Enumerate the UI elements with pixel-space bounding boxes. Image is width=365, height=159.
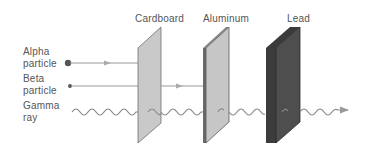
lead-shield [266, 27, 300, 143]
beta-particle-path-continued [161, 84, 204, 89]
aluminum-shield [203, 27, 229, 143]
cardboard-shield [138, 27, 161, 143]
beta-particle-path [68, 84, 138, 88]
beta-arrow-icon [176, 84, 183, 89]
gamma-ray-path [72, 109, 138, 115]
radiation-penetration-diagram: Cardboard Aluminum Lead Alpha particle B… [0, 0, 365, 159]
alpha-particle-path [65, 60, 138, 66]
alpha-arrow-icon [104, 61, 111, 66]
diagram-graphics [0, 0, 365, 159]
gamma-segment-3 [161, 109, 205, 115]
